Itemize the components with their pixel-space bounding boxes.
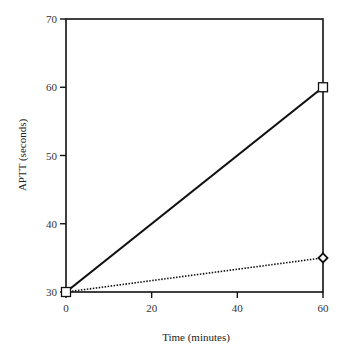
plot-frame (66, 19, 323, 292)
y-tick-label: 50 (46, 150, 58, 162)
series-1-line (66, 87, 323, 292)
x-axis: 0204060 (63, 292, 329, 314)
x-tick-label: 0 (63, 302, 69, 314)
y-tick-label: 60 (46, 81, 58, 93)
x-axis-label: Time (minutes) (162, 331, 230, 344)
square-marker (62, 288, 71, 297)
diamond-marker (319, 253, 328, 262)
x-tick-label: 60 (318, 302, 330, 314)
y-tick-label: 70 (46, 13, 58, 25)
aptt-line-chart: 3040506070 0204060 APTT (seconds) Time (… (0, 0, 344, 355)
series-2-line (66, 258, 323, 292)
series-group (62, 83, 328, 297)
y-axis-label: APTT (seconds) (16, 119, 29, 192)
y-tick-label: 30 (46, 286, 58, 298)
y-tick-label: 40 (46, 218, 58, 230)
square-marker (319, 83, 328, 92)
x-tick-label: 40 (232, 302, 244, 314)
y-axis: 3040506070 (46, 13, 66, 298)
plot-border (66, 19, 323, 292)
x-tick-label: 20 (146, 302, 158, 314)
